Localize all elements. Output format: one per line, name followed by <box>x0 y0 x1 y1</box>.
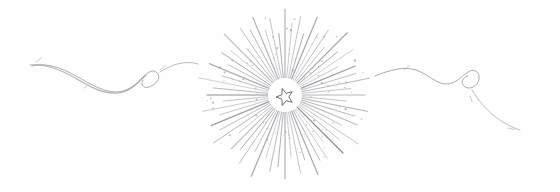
starburst-fleck <box>289 137 291 139</box>
starburst-fleck <box>290 29 292 31</box>
starburst-fleck <box>340 58 341 59</box>
starburst-fleck <box>342 138 343 139</box>
starburst-fleck <box>207 100 208 101</box>
starburst-fleck <box>265 122 266 123</box>
right-flourish-tail <box>472 90 520 130</box>
starburst-fleck <box>313 120 315 122</box>
accent-mark-right-1 <box>404 66 409 71</box>
starburst-fleck <box>306 125 307 126</box>
starburst-fleck <box>331 71 332 72</box>
starburst-fleck <box>323 147 324 148</box>
starburst-ray <box>247 49 276 85</box>
starburst-fleck <box>212 101 214 103</box>
starburst-fleck <box>361 118 363 120</box>
starburst-fleck <box>322 60 324 62</box>
starburst-fleck <box>287 122 288 123</box>
starburst-ray <box>298 99 354 116</box>
starburst-fleck <box>250 60 252 62</box>
starburst-fleck <box>351 92 352 93</box>
starburst-fleck <box>297 148 298 149</box>
left-flourish-curl <box>32 65 159 92</box>
starburst-ray <box>279 33 284 81</box>
left-flourish-group <box>30 62 198 93</box>
accent-mark-left-2 <box>84 85 89 88</box>
starburst-fleck <box>292 69 294 71</box>
starburst-fleck <box>223 80 224 81</box>
artwork-canvas <box>0 0 560 192</box>
starburst-fleck <box>285 131 287 133</box>
starburst-fleck <box>273 57 275 59</box>
starburst-fleck <box>354 60 356 62</box>
starburst-fleck <box>232 79 233 80</box>
starburst-fleck <box>321 82 323 84</box>
starburst-fleck <box>286 27 288 29</box>
starburst-fleck <box>224 71 226 73</box>
starburst-fleck <box>267 128 269 130</box>
starburst-fleck <box>294 18 296 20</box>
starburst-fleck <box>332 122 334 124</box>
starburst-fleck <box>328 91 329 92</box>
starburst-ray <box>299 89 351 94</box>
starburst-fleck <box>256 115 258 117</box>
starburst-fleck <box>272 36 274 38</box>
starburst-fleck <box>275 54 276 55</box>
starburst-fleck <box>251 65 252 66</box>
starburst-fleck <box>264 17 266 19</box>
starburst-fleck <box>275 132 276 133</box>
starburst-fleck <box>336 36 338 38</box>
starburst-fleck <box>363 72 364 73</box>
starburst-fleck <box>326 137 328 139</box>
starburst-fleck <box>316 36 318 38</box>
starburst-ray <box>223 96 271 101</box>
starburst-fleck <box>221 143 222 144</box>
starburst-ray <box>298 74 355 91</box>
starburst-fleck <box>254 168 255 169</box>
starburst-fleck <box>239 80 241 82</box>
accent-mark-left-1 <box>36 58 42 62</box>
starburst-fleck <box>302 127 303 128</box>
starburst-fleck <box>266 139 268 141</box>
starburst-fleck <box>242 78 244 80</box>
starburst-fleck <box>345 82 347 84</box>
starburst-fleck <box>210 98 212 100</box>
starburst-ray <box>294 106 323 142</box>
starburst-fleck <box>324 156 326 158</box>
starburst-fleck <box>219 66 221 68</box>
starburst-fleck <box>256 98 258 100</box>
starburst-fleck <box>288 132 289 133</box>
starburst-fleck <box>318 66 319 67</box>
right-flourish-group <box>375 68 520 130</box>
starburst-fleck <box>329 115 330 116</box>
starburst-fleck <box>265 108 266 109</box>
starburst-fleck <box>299 152 300 153</box>
starburst-fleck <box>309 72 311 74</box>
starburst-fleck <box>331 138 333 140</box>
starburst-fleck <box>339 82 340 83</box>
starburst-fleck <box>231 60 233 62</box>
starburst-fleck <box>267 114 269 116</box>
starburst-fleck <box>322 129 323 130</box>
starburst-fleck <box>344 87 346 89</box>
starburst-fleck <box>270 158 271 159</box>
starburst-fleck <box>246 62 247 63</box>
accent-mark-right-3 <box>508 128 515 129</box>
starburst-fleck <box>288 134 290 136</box>
starburst-fleck <box>269 144 270 145</box>
starburst-fleck <box>310 96 311 97</box>
starburst-fleck <box>304 76 305 77</box>
left-flourish-tail <box>160 62 198 72</box>
starburst-fleck <box>318 75 320 77</box>
starburst-fleck <box>263 122 264 123</box>
starburst-fleck <box>249 101 250 102</box>
starburst-fleck <box>344 108 346 110</box>
starburst-fleck <box>325 129 327 131</box>
ornamental-divider-drawing <box>0 0 560 192</box>
starburst-ray <box>239 104 275 133</box>
starburst-fleck <box>321 135 323 137</box>
starburst-fleck <box>230 137 231 138</box>
starburst-fleck <box>312 130 314 132</box>
starburst-fleck <box>309 139 310 140</box>
starburst-fleck <box>327 84 329 86</box>
right-flourish-curl <box>375 68 479 88</box>
starburst-fleck <box>288 53 289 54</box>
